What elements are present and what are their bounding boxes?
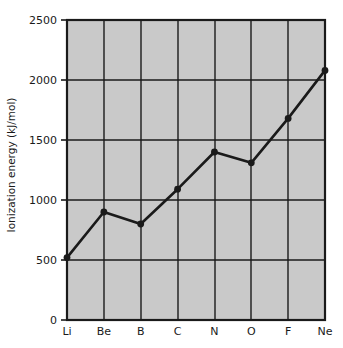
- ionization-energy-chart: Ionization energy (kJ/mol) 0500100015: [0, 0, 343, 348]
- data-point-o: [248, 159, 255, 166]
- x-axis-tick-labels: LiBeBCNOFNe: [62, 325, 332, 338]
- data-point-ne: [322, 67, 329, 74]
- data-point-f: [285, 115, 292, 122]
- x-tick-label-o: O: [247, 325, 256, 338]
- y-tick-label-2500: 2500: [29, 14, 57, 27]
- y-tick-label-2000: 2000: [29, 74, 57, 87]
- x-tick-label-li: Li: [62, 325, 71, 338]
- x-tick-label-n: N: [210, 325, 218, 338]
- y-axis-tick-labels: 05001000150020002500: [29, 14, 57, 327]
- y-tick-label-1000: 1000: [29, 194, 57, 207]
- data-point-c: [174, 186, 181, 193]
- y-tick-label-0: 0: [50, 314, 57, 327]
- x-tick-label-be: Be: [97, 325, 112, 338]
- x-tick-label-b: B: [137, 325, 145, 338]
- data-point-n: [211, 149, 218, 156]
- data-point-b: [137, 221, 144, 228]
- y-tick-label-1500: 1500: [29, 134, 57, 147]
- x-tick-label-c: C: [174, 325, 182, 338]
- plot-area: 05001000150020002500 LiBeBCNOFNe: [0, 0, 343, 348]
- y-tick-label-500: 500: [36, 254, 57, 267]
- x-tick-label-f: F: [285, 325, 291, 338]
- data-point-be: [100, 209, 107, 216]
- x-tick-label-ne: Ne: [318, 325, 333, 338]
